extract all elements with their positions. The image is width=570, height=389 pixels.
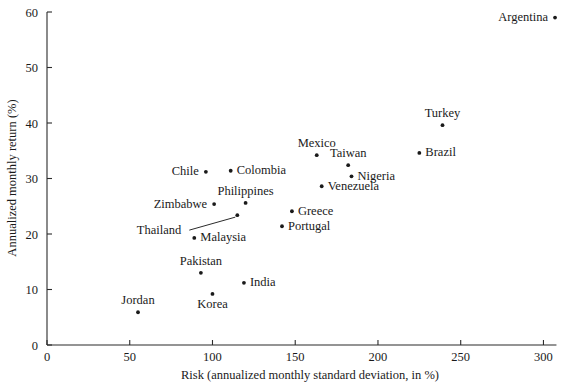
- data-point-nigeria: [350, 174, 354, 178]
- point-label-greece: Greece: [298, 204, 334, 218]
- x-tick-label-100: 100: [203, 350, 222, 364]
- scatter-plot-svg: 0501001502002503000102030405060 Argentin…: [0, 0, 570, 389]
- data-point-india: [242, 281, 246, 285]
- point-label-brazil: Brazil: [425, 145, 456, 159]
- point-label-thailand: Thailand: [137, 223, 182, 237]
- x-tick-label-200: 200: [369, 350, 388, 364]
- y-tick-label-0: 0: [32, 339, 38, 353]
- point-label-portugal: Portugal: [288, 219, 331, 233]
- data-point-pakistan: [199, 271, 203, 275]
- scatter-chart-figure: 0501001502002503000102030405060 Argentin…: [0, 0, 570, 389]
- data-point-chile: [204, 170, 208, 174]
- data-point-jordan: [136, 310, 140, 314]
- data-point-philippines: [244, 201, 248, 205]
- point-label-chile: Chile: [172, 164, 200, 178]
- data-point-turkey: [441, 123, 445, 127]
- point-label-venezuela: Venezuela: [328, 179, 380, 193]
- data-point-venezuela: [320, 184, 324, 188]
- point-label-argentina: Argentina: [498, 10, 548, 24]
- tick-labels-group: 0501001502002503000102030405060: [26, 6, 553, 365]
- data-point-argentina: [553, 16, 557, 20]
- data-point-mexico: [315, 153, 319, 157]
- y-tick-label-30: 30: [26, 172, 39, 186]
- point-label-taiwan: Taiwan: [330, 146, 367, 160]
- y-tick-label-20: 20: [26, 228, 39, 242]
- data-point-thailand: [235, 213, 239, 217]
- data-point-malaysia: [192, 236, 196, 240]
- data-points-group: [136, 16, 557, 315]
- x-tick-label-250: 250: [451, 350, 470, 364]
- data-point-portugal: [280, 224, 284, 228]
- y-tick-label-50: 50: [26, 61, 39, 75]
- point-labels-group: ArgentinaTurkeyBrazilMexicoTaiwanChileCo…: [121, 10, 548, 311]
- x-axis-title: Risk (annualized monthly standard deviat…: [181, 368, 439, 382]
- y-axis-title: Annualized monthly return (%): [5, 99, 19, 256]
- point-label-pakistan: Pakistan: [180, 254, 223, 268]
- y-tick-label-60: 60: [26, 6, 39, 20]
- data-point-zimbabwe: [212, 202, 216, 206]
- x-tick-label-0: 0: [44, 350, 50, 364]
- data-point-greece: [290, 209, 294, 213]
- x-tick-label-50: 50: [123, 350, 136, 364]
- y-tick-label-40: 40: [26, 117, 39, 131]
- x-tick-label-150: 150: [286, 350, 305, 364]
- point-label-korea: Korea: [197, 297, 228, 311]
- leader-lines-group: [189, 217, 235, 230]
- y-tick-label-10: 10: [26, 283, 39, 297]
- data-point-colombia: [229, 169, 233, 173]
- point-label-jordan: Jordan: [121, 293, 155, 307]
- point-label-malaysia: Malaysia: [200, 230, 246, 244]
- data-point-korea: [211, 292, 215, 296]
- point-label-india: India: [250, 275, 276, 289]
- point-label-colombia: Colombia: [237, 163, 287, 177]
- point-label-zimbabwe: Zimbabwe: [154, 197, 208, 211]
- point-label-turkey: Turkey: [425, 106, 461, 120]
- data-point-taiwan: [346, 163, 350, 167]
- leader-line-thailand: [189, 217, 235, 230]
- data-point-brazil: [417, 151, 421, 155]
- point-label-philippines: Philippines: [217, 184, 273, 198]
- x-tick-label-300: 300: [534, 350, 553, 364]
